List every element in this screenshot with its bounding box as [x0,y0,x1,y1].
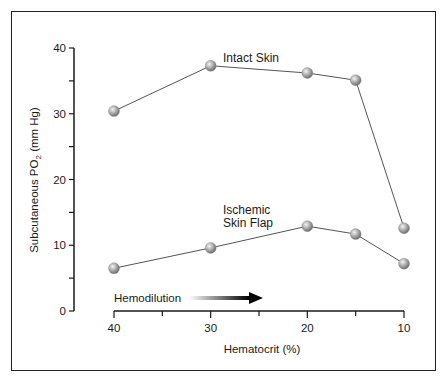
data-point-marker [302,67,313,78]
y-tick-label: 20 [53,174,66,186]
hemodilution-arrow-head [249,292,263,304]
y-tick-label: 30 [53,108,66,120]
series-label-ischemic-line2: Skin Flap [223,216,273,230]
series-label-ischemic-line1: Ischemic [223,203,270,217]
data-point-marker [109,263,120,274]
x-tick-label: 30 [204,322,217,334]
data-point-marker [205,60,216,71]
series-group [109,60,410,274]
x-tick-label: 20 [301,322,314,334]
y-axis: 010203040 [53,42,74,317]
series-label-intact-skin: Intact Skin [223,51,279,65]
y-tick-label: 0 [60,305,66,317]
y-tick-label: 10 [53,239,66,251]
data-point-marker [205,242,216,253]
data-point-marker [350,75,361,86]
hemodilution-arrow-shaft [189,296,249,300]
y-axis-label: Subcutaneous PO2 (mm Hg) [28,107,43,253]
x-axis: 40302010 [108,311,411,334]
x-tick-label: 40 [108,322,121,334]
x-axis-label: Hematocrit (%) [224,343,301,355]
hemodilution-annotation: Hemodilution [114,292,263,304]
data-point-marker [109,106,120,117]
x-tick-label: 10 [398,322,411,334]
data-point-marker [302,221,313,232]
hemodilution-label: Hemodilution [114,292,181,304]
data-point-marker [399,223,410,234]
data-point-marker [399,258,410,269]
y-tick-label: 40 [53,42,66,54]
line-chart: 010203040 Subcutaneous PO2 (mm Hg) 40302… [0,0,447,386]
data-point-marker [350,229,361,240]
